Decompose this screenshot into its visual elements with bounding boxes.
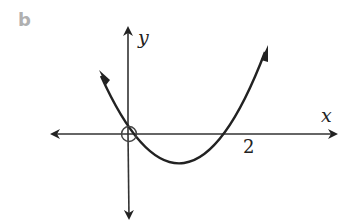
y-axis-negative bbox=[128, 134, 129, 218]
parabola-curve bbox=[101, 52, 265, 163]
part-label: b bbox=[18, 9, 31, 30]
x-axis-label: x bbox=[321, 104, 332, 126]
root-label: 2 bbox=[243, 136, 254, 157]
y-axis-label: y bbox=[137, 26, 149, 48]
parabola-diagram: b y x 2 bbox=[0, 0, 359, 222]
curve-arrow-right bbox=[261, 45, 268, 62]
